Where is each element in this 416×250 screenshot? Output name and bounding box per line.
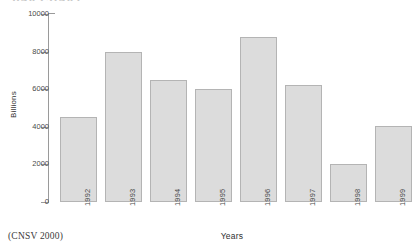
- bar-chart-figure: BAR CHART Billions 020004000600080001000…: [0, 0, 416, 250]
- x-axis-tick-label: 1996: [263, 166, 272, 206]
- x-axis-tick-label: 1992: [83, 166, 92, 206]
- y-axis-tick-label: 8000: [13, 48, 49, 56]
- y-axis-tick-label: 2000: [13, 160, 49, 168]
- y-axis-tick-label: 10000: [13, 10, 49, 18]
- y-axis-tick-label: 4000: [13, 123, 49, 131]
- chart-title: BAR CHART: [12, 0, 83, 1]
- x-axis-tick-label: 1993: [128, 166, 137, 206]
- y-axis-tick-label-row: 2000: [0, 160, 49, 168]
- x-axis-tick-label: 1994: [173, 166, 182, 206]
- y-axis-top-cap: [48, 13, 55, 14]
- y-axis-tick-label-row: 0: [0, 198, 49, 206]
- y-axis-tick-label: 0: [13, 198, 49, 206]
- x-axis-tick-label: 1999: [398, 166, 407, 206]
- x-axis-tick-label: 1997: [308, 166, 317, 206]
- y-axis-tick-label-row: 10000: [0, 10, 49, 18]
- y-axis-line: [48, 13, 49, 203]
- x-axis-tick-label: 1998: [353, 166, 362, 206]
- y-axis-tick-label-row: 4000: [0, 123, 49, 131]
- y-axis-tick-label-row: 6000: [0, 85, 49, 93]
- source-note: (CNSV 2000): [8, 231, 63, 241]
- y-axis-tick-label-row: 8000: [0, 48, 49, 56]
- y-axis-tick-label: 6000: [13, 85, 49, 93]
- x-axis-tick-label: 1995: [218, 166, 227, 206]
